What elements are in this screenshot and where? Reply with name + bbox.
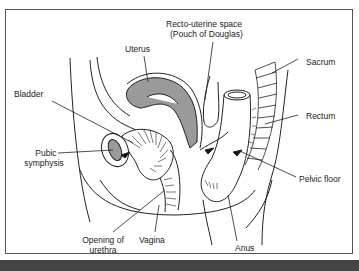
label-anus: Anus [235, 243, 254, 253]
label-urethra: urethra [78, 245, 128, 255]
abdominal-wall-line [70, 58, 90, 222]
bottom-bar [0, 260, 359, 271]
label-pelvic-floor: Pelvic floor [299, 174, 341, 184]
label-uterus: Uterus [125, 44, 150, 54]
label-sacrum: Sacrum [306, 57, 335, 67]
sacrum [245, 62, 277, 170]
label-recto-uterine-space: Recto-uterine space [166, 19, 242, 29]
rectum [201, 90, 256, 202]
pelvis-illustration [0, 0, 359, 271]
label-symphysis: symphysis [17, 158, 71, 168]
label-bladder: Bladder [14, 89, 43, 99]
label-pouch-of-douglas: (Pouch of Douglas) [170, 29, 243, 39]
label-vagina: Vagina [139, 235, 165, 245]
leader-lines [52, 42, 298, 241]
label-pubic: Pubic [28, 148, 64, 158]
label-opening-of: Opening of [78, 235, 128, 245]
bladder [122, 129, 173, 180]
label-rectum: Rectum [306, 111, 335, 121]
